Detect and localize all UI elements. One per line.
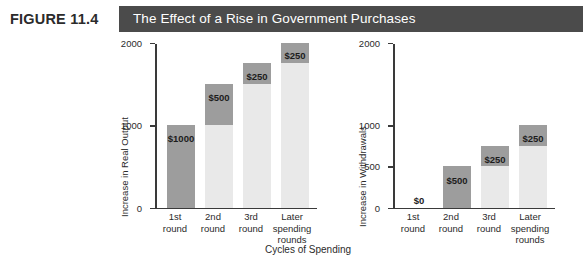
x-label-line1: Later — [265, 211, 319, 223]
y-axis-line-right — [393, 44, 395, 209]
y-tick-right-500: 500 — [388, 166, 393, 168]
bar-value-label-right-3: $250 — [519, 133, 547, 144]
bar-segment-base — [205, 125, 233, 208]
bar-value-label-left-1: $500 — [205, 92, 233, 103]
bar-left-2nd-round: $500 — [205, 84, 233, 208]
figure-number-label: FIGURE 11.4 — [10, 6, 98, 32]
y-tick-right-2000: 2000 — [388, 43, 393, 45]
x-label-line2: round — [193, 223, 233, 235]
bar-left-3rd-round: $250 — [243, 63, 271, 207]
bar-value-label-right-1: $500 — [443, 175, 471, 186]
x-label-right-1st-round: 1st round — [393, 211, 433, 234]
x-label-line3: rounds — [503, 234, 557, 246]
y-tick-left-2000: 2000 — [150, 43, 155, 45]
bar-value-label-left-2: $250 — [243, 71, 271, 82]
figure-header: FIGURE 11.4 The Effect of a Rise in Gove… — [0, 6, 583, 32]
x-label-line2: round — [155, 223, 195, 235]
x-label-line2: spending — [503, 223, 557, 235]
bar-right-3rd-round: $250 — [481, 146, 509, 208]
y-tick-label-right-2000: 2000 — [359, 37, 380, 48]
x-label-left-1st-round: 1st round — [155, 211, 195, 234]
plot-area-left: 0 1000 2000 $1000 $500 — [155, 44, 315, 209]
bar-right-later-rounds: $250 — [519, 125, 547, 208]
x-axis-line-left — [155, 208, 317, 210]
y-tick-label-left-2000: 2000 — [121, 37, 142, 48]
bar-right-2nd-round: $500 — [443, 166, 471, 207]
charts-area: Increase in Real Output 0 1000 2000 $100… — [0, 32, 583, 266]
bar-left-later-rounds: $250 — [281, 43, 309, 208]
y-tick-label-right-500: 500 — [364, 161, 380, 172]
bar-segment-increment — [205, 84, 233, 125]
y-tick-right-0: 0 — [388, 208, 393, 210]
bar-segment-base — [281, 63, 309, 207]
x-label-right-later-rounds: Later spending rounds — [503, 211, 557, 246]
plot-area-right: 0 500 1000 2000 $0 $500 — [393, 44, 553, 209]
x-label-left-2nd-round: 2nd round — [193, 211, 233, 234]
y-tick-label-right-0: 0 — [375, 202, 380, 213]
x-label-line1: 1st — [393, 211, 433, 223]
x-label-line2: round — [431, 223, 471, 235]
bar-value-label-left-3: $250 — [281, 50, 309, 61]
bar-segment-base — [519, 146, 547, 208]
bar-value-label-right-0: $0 — [405, 195, 433, 206]
chart-increase-in-real-output: Increase in Real Output 0 1000 2000 $100… — [110, 32, 325, 266]
y-tick-right-1000: 1000 — [388, 125, 393, 127]
y-tick-label-left-1000: 1000 — [121, 120, 142, 131]
figure-title-bar: The Effect of a Rise in Government Purch… — [119, 6, 583, 32]
x-label-line2: spending — [265, 223, 319, 235]
y-tick-left-1000: 1000 — [150, 125, 155, 127]
x-label-line1: Later — [503, 211, 557, 223]
bar-segment-base — [481, 166, 509, 207]
chart-increase-in-withdrawals: Increase in Withdrawals 0 500 1000 2000 … — [348, 32, 563, 266]
bar-value-label-right-2: $250 — [481, 154, 509, 165]
bar-segment-increment — [443, 166, 471, 207]
x-label-line1: 2nd — [431, 211, 471, 223]
x-axis-title: Cycles of Spending — [238, 244, 378, 255]
y-tick-label-left-0: 0 — [137, 202, 142, 213]
y-axis-title-left: Increase in Real Output — [119, 117, 130, 217]
bar-segment-base — [243, 84, 271, 208]
x-axis-line-right — [393, 208, 555, 210]
y-tick-left-0: 0 — [150, 208, 155, 210]
x-label-right-2nd-round: 2nd round — [431, 211, 471, 234]
figure-title-text: The Effect of a Rise in Government Purch… — [133, 6, 416, 32]
y-tick-label-right-1000: 1000 — [359, 120, 380, 131]
x-label-line1: 2nd — [193, 211, 233, 223]
bar-left-1st-round: $1000 — [167, 125, 195, 208]
bar-value-label-left-0: $1000 — [167, 133, 195, 144]
y-axis-line-left — [155, 44, 157, 209]
x-label-line2: round — [393, 223, 433, 235]
y-axis-title-right: Increase in Withdrawals — [357, 126, 368, 227]
x-label-line1: 1st — [155, 211, 195, 223]
x-label-left-later-rounds: Later spending rounds — [265, 211, 319, 246]
